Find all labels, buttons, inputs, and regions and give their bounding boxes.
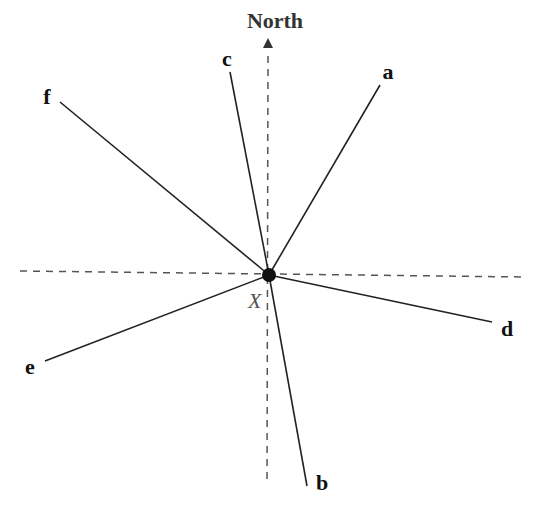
- ray-e: [45, 275, 269, 361]
- center-point-x: [262, 268, 276, 282]
- compass-diagram: North abcdef X: [0, 0, 539, 517]
- ray-d: [269, 275, 492, 322]
- ray-f: [60, 102, 269, 275]
- ray-a: [269, 85, 380, 275]
- ray-label-f: f: [43, 84, 51, 109]
- ray-b: [269, 275, 307, 486]
- ray-label-a: a: [383, 59, 394, 84]
- north-label: North: [247, 8, 303, 33]
- north-arrow-icon: [263, 38, 273, 48]
- ray-label-e: e: [25, 354, 35, 379]
- ray-label-c: c: [222, 46, 232, 71]
- center-label: X: [247, 288, 263, 313]
- ray-label-b: b: [316, 470, 328, 495]
- ray-label-d: d: [501, 316, 513, 341]
- ray-c: [230, 72, 269, 275]
